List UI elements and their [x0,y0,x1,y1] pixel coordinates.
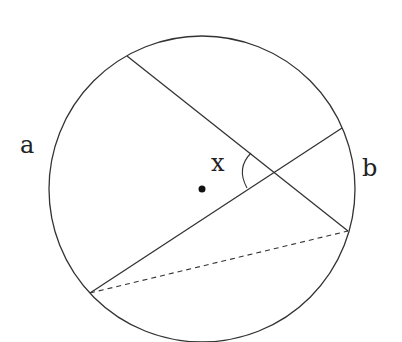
dashed-chord [90,231,348,293]
chord-1 [127,56,348,231]
circle-chords-diagram: a x b [0,0,402,342]
label-a: a [20,131,34,159]
label-x: x [211,149,225,177]
diagram-canvas: a x b [0,0,402,342]
label-b: b [362,154,377,182]
center-dot [199,186,206,193]
angle-arc-x [242,153,251,188]
